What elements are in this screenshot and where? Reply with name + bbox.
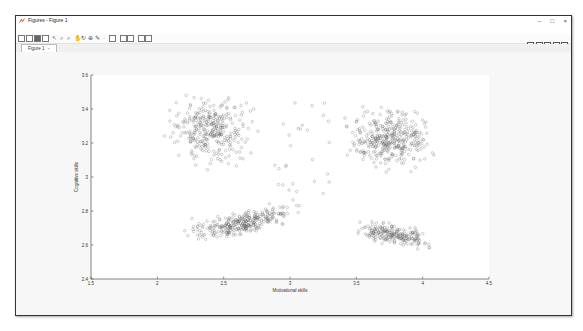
data-points (91, 75, 489, 279)
pan-icon[interactable]: ✋ (74, 34, 81, 42)
grid-icon[interactable] (127, 35, 134, 42)
tab-figure-1[interactable]: Figure 1× (21, 44, 57, 52)
y-tick-label: 3 (85, 175, 88, 180)
maximize-button[interactable]: □ (550, 17, 554, 25)
y-tick-label: 2.4 (82, 277, 89, 282)
legend-icon[interactable] (120, 35, 127, 42)
title-bar[interactable]: Figures - Figure 1 – □ × (16, 16, 571, 26)
window-title: Figures - Figure 1 (28, 17, 67, 23)
y-tick-label: 3.6 (82, 73, 89, 78)
x-tick-label: 3 (289, 281, 292, 286)
matlab-logo-icon (19, 18, 25, 24)
open-file-icon[interactable] (26, 35, 33, 42)
x-tick-label: 3.5 (353, 281, 360, 286)
data-cursor-icon[interactable]: ⊕ (88, 34, 93, 42)
scatter-plot[interactable]: 1.522.533.544.52.42.62.833.23.43.6Motiva… (16, 52, 571, 314)
show-plot-tools-icon[interactable] (145, 35, 152, 42)
minimize-button[interactable]: – (538, 17, 541, 25)
zoom-out-icon[interactable]: ⌕ (67, 34, 70, 42)
colorbar-icon[interactable] (109, 35, 116, 42)
x-axis-label: Motivational skills (272, 288, 308, 293)
y-tick-label: 2.8 (82, 209, 89, 214)
y-tick-label: 2.6 (82, 243, 89, 248)
menu-bar: FileEditViewInsertToolsDebugDesktopWindo… (16, 26, 571, 34)
hide-plot-tools-icon[interactable] (138, 35, 145, 42)
x-tick-label: 4 (421, 281, 424, 286)
x-tick-label: 1.5 (88, 281, 95, 286)
close-button[interactable]: × (563, 17, 567, 25)
brush-icon[interactable]: ✎ (95, 34, 100, 42)
x-tick-label: 2 (156, 281, 159, 286)
x-tick-label: 2.5 (221, 281, 228, 286)
figure-window: Figures - Figure 1 – □ × FileEditViewIns… (15, 15, 572, 316)
tab-bar: Figure 1× (16, 44, 571, 52)
y-tick-label: 3.2 (82, 141, 89, 146)
link-icon[interactable]: · (103, 34, 105, 42)
pointer-icon[interactable]: ↖ (52, 34, 57, 42)
x-tick-label: 4.5 (486, 281, 493, 286)
print-icon[interactable] (42, 35, 49, 42)
y-axis-label: Cognitive skills (74, 161, 79, 192)
y-tick-label: 3.4 (82, 107, 89, 112)
save-icon[interactable] (34, 35, 41, 42)
new-figure-icon[interactable] (18, 35, 25, 42)
figure-toolbar: ↖ ⌕ ⌕ ✋ ↻ ⊕ ✎ · (16, 34, 571, 44)
figure-canvas[interactable]: 1.522.533.544.52.42.62.833.23.43.6Motiva… (16, 52, 571, 315)
zoom-in-icon[interactable]: ⌕ (60, 34, 63, 42)
tab-label: Figure 1 (28, 46, 45, 51)
tab-close-icon[interactable]: × (48, 46, 50, 51)
rotate-icon[interactable]: ↻ (81, 34, 86, 42)
